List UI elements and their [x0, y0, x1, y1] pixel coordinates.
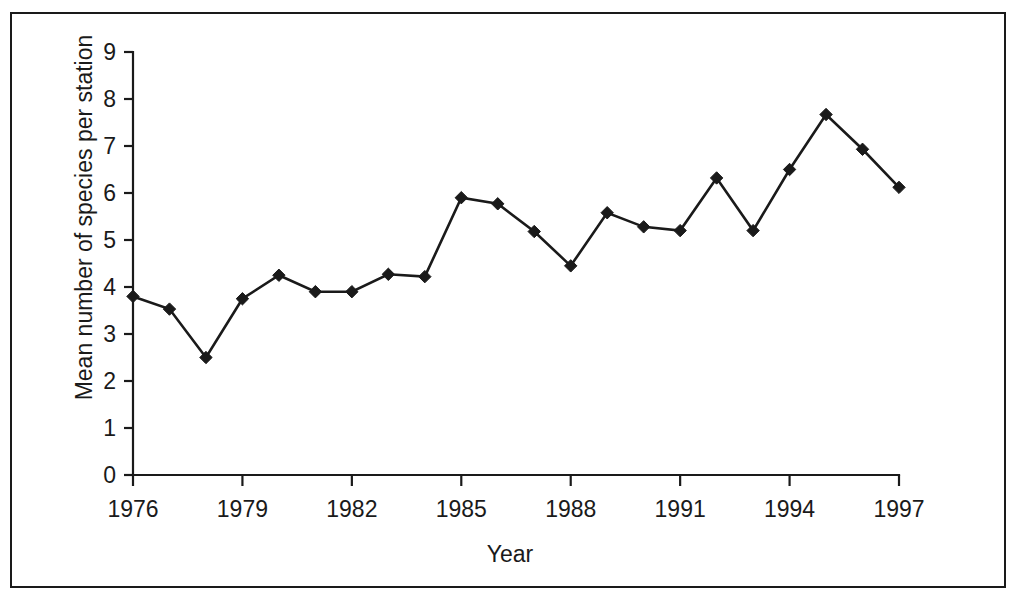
- y-tick-label: 3: [103, 321, 116, 347]
- data-series-line: [133, 115, 899, 358]
- data-point-markers: [127, 108, 905, 363]
- data-point-marker: [127, 290, 139, 302]
- plot-area: 0123456789 19761979198219851988199119941…: [12, 14, 1008, 534]
- y-tick-label: 9: [103, 39, 116, 65]
- y-tick-label: 2: [103, 368, 116, 394]
- y-tick-label: 6: [103, 180, 116, 206]
- x-tick-label: 1991: [655, 496, 706, 522]
- data-point-marker: [309, 286, 321, 298]
- x-tick-label: 1994: [764, 496, 815, 522]
- figure-frame: Mean number of species per station Year …: [10, 12, 1006, 588]
- data-point-marker: [419, 270, 431, 282]
- x-tick-label-group: 19761979198219851988199119941997: [107, 496, 924, 522]
- x-tick-label: 1985: [436, 496, 487, 522]
- data-point-marker: [346, 286, 358, 298]
- x-tick-label: 1976: [107, 496, 158, 522]
- y-tick-label: 0: [103, 462, 116, 488]
- data-point-marker: [455, 192, 467, 204]
- y-tick-label: 7: [103, 133, 116, 159]
- x-tick-label: 1982: [326, 496, 377, 522]
- x-tick-label: 1988: [545, 496, 596, 522]
- data-point-marker: [637, 221, 649, 233]
- y-tick-label: 4: [103, 274, 116, 300]
- data-point-marker: [382, 268, 394, 280]
- x-tick-label: 1997: [873, 496, 924, 522]
- chart-page: Mean number of species per station Year …: [0, 0, 1018, 600]
- y-tick-label: 8: [103, 86, 116, 112]
- y-tick-label-group: 0123456789: [103, 39, 116, 488]
- data-point-marker: [273, 269, 285, 281]
- y-tick-label: 5: [103, 227, 116, 253]
- x-axis-title: Year: [12, 541, 1008, 568]
- x-tick-label: 1979: [217, 496, 268, 522]
- x-tick-mark-group: [133, 475, 899, 486]
- y-tick-label: 1: [103, 415, 116, 441]
- y-tick-mark-group: [124, 52, 133, 475]
